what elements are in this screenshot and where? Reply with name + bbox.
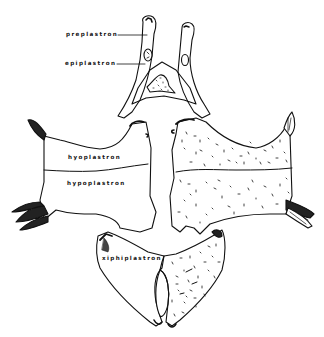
label-hypoplastron: hypoplastron xyxy=(67,181,126,187)
xiphiplastron-left xyxy=(97,232,169,326)
stipple-right-hyo xyxy=(178,132,289,223)
hyo-hypoplastron-left xyxy=(12,120,156,232)
epiplastron-left xyxy=(118,16,156,118)
xiphiplastron-right xyxy=(160,230,225,327)
label-preplastron: preplastron xyxy=(66,32,118,38)
label-xiphiplastron: xiphiplastron xyxy=(102,256,162,262)
label-epiplastron: epiplastron xyxy=(65,61,116,67)
hyo-hypoplastron-right xyxy=(170,112,314,234)
plastron-diagram xyxy=(0,0,324,337)
label-hyoplastron: hyoplastron xyxy=(68,155,121,161)
